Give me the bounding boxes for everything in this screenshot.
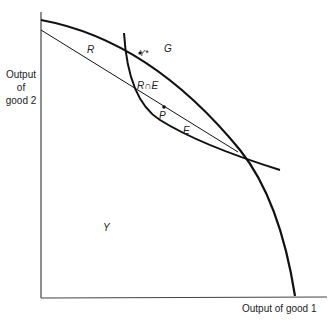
y-axis-label-line1: Output — [0, 68, 42, 81]
point-P — [162, 105, 166, 109]
label-E: E — [183, 125, 190, 137]
y-axis-label: Output of good 2 — [0, 68, 42, 107]
x-axis-label: Output of good 1 — [242, 303, 317, 315]
x-axis — [41, 297, 327, 298]
label-P: P — [159, 110, 166, 122]
y-axis-label-line3: good 2 — [0, 94, 42, 107]
label-Y: Y — [103, 222, 110, 234]
label-R-intersect-E: R∩E — [137, 80, 158, 92]
label-G: G — [164, 43, 172, 55]
production-frontier-Y — [41, 20, 295, 296]
y-axis-label-line2: of — [0, 81, 42, 94]
label-R: R — [87, 44, 94, 56]
label-Y-star: Y* — [139, 47, 149, 59]
